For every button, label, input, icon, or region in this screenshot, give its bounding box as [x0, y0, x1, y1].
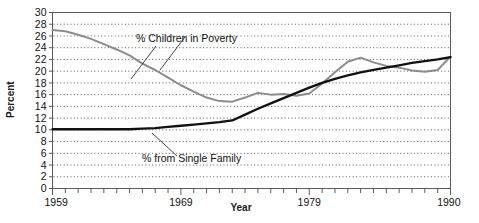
- chart-container: 302826242220181614121086420 195919691979…: [0, 0, 479, 223]
- y-tick-label: 24: [35, 41, 47, 53]
- y-tick-label: 22: [35, 53, 47, 65]
- y-axis-tick-labels: 302826242220181614121086420: [35, 6, 47, 194]
- x-axis-tick-labels: 1959196919791990: [45, 196, 461, 208]
- y-tick-label: 6: [41, 147, 47, 159]
- y-tick-label: 28: [35, 18, 47, 30]
- x-tick-label: 1990: [437, 196, 461, 208]
- line-chart: 302826242220181614121086420 195919691979…: [0, 0, 479, 223]
- y-tick-label: 30: [35, 6, 47, 18]
- x-tick-label: 1959: [45, 196, 69, 208]
- y-tick-label: 18: [35, 77, 47, 89]
- y-axis-title: Percent: [5, 81, 16, 118]
- y-tick-label: 4: [41, 159, 47, 171]
- single-family-annotation-label: % from Single Family: [142, 152, 242, 164]
- plot-frame: [53, 13, 451, 189]
- y-tick-label: 20: [35, 65, 47, 77]
- y-tick-label: 0: [41, 182, 47, 194]
- y-tick-label: 10: [35, 123, 47, 135]
- x-axis-ticks: [53, 189, 451, 196]
- y-axis-ticks: [49, 13, 53, 189]
- x-tick-label: 1979: [298, 196, 322, 208]
- y-tick-label: 12: [35, 112, 47, 124]
- x-axis-title: Year: [230, 202, 251, 213]
- y-tick-label: 26: [35, 30, 47, 42]
- y-tick-label: 16: [35, 88, 47, 100]
- y-tick-label: 8: [41, 135, 47, 147]
- x-tick-label: 1969: [169, 196, 193, 208]
- poverty-annotation-label: % Children in Poverty: [136, 32, 238, 44]
- y-tick-label: 14: [35, 100, 47, 112]
- y-tick-label: 2: [41, 170, 47, 182]
